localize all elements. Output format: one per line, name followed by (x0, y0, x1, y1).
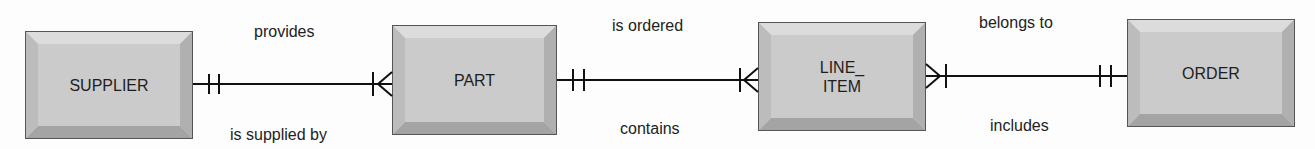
rel-label-provides: provides (254, 23, 314, 41)
rel-label-is-ordered: is ordered (612, 17, 683, 35)
rel-label-is-supplied-by: is supplied by (230, 126, 327, 144)
rel-label-belongs-to: belongs to (979, 14, 1053, 32)
rel-label-contains: contains (620, 120, 680, 138)
rel-label-includes: includes (990, 117, 1049, 135)
